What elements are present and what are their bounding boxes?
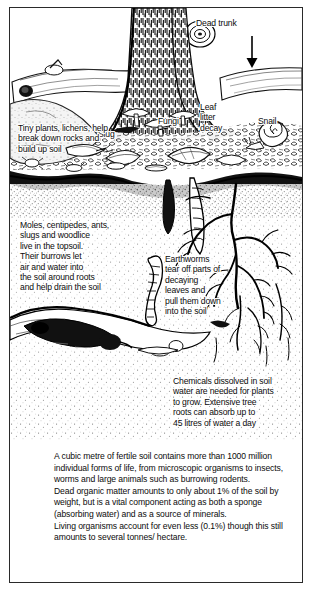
label-tiny-plants: Tiny plants, lichens, help break down ro… (18, 123, 108, 154)
label-leaf-litter-decay: Leaf litter decay (200, 102, 222, 133)
caption-paragraph-1: A cubic metre of fertile soil contains m… (54, 451, 292, 486)
label-snail: Snail (258, 116, 276, 126)
caption-paragraph-3: Living organisms account for even less (… (54, 521, 292, 544)
label-earthworms: Earthworms tear off parts of decaying le… (165, 254, 221, 316)
label-fungi: Fungi (158, 116, 179, 126)
illustration-panel: Dead trunk Fungi Leaf litter decay Snail… (10, 8, 302, 440)
soil-cross-section-figure: Dead trunk Fungi Leaf litter decay Snail… (9, 7, 303, 583)
caption-block: A cubic metre of fertile soil contains m… (54, 451, 292, 544)
label-dead-trunk: Dead trunk (196, 18, 237, 28)
label-moles: Moles, centipedes, ants, slugs and woodl… (20, 220, 109, 293)
caption-paragraph-2: Dead organic matter amounts to only abou… (54, 486, 292, 521)
label-chemicals: Chemicals dissolved in soil water are ne… (173, 376, 274, 428)
